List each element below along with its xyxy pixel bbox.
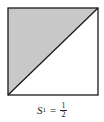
subscript: 1 <box>42 106 46 114</box>
numerator: 1 <box>62 102 66 110</box>
equals-sign: = <box>50 104 56 116</box>
denominator: 2 <box>62 111 66 119</box>
fraction: 1 2 <box>60 102 67 119</box>
area-label: S1 = 1 2 <box>0 100 104 120</box>
square-diagram <box>0 0 104 100</box>
